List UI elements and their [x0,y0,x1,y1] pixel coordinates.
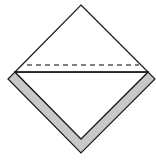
top-triangle [15,5,148,72]
origami-diagram-svg [0,0,156,161]
origami-diagram [0,0,156,161]
